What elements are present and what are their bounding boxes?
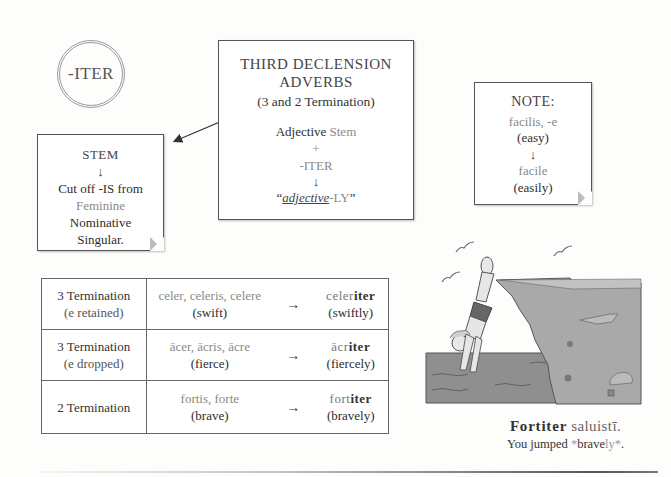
formula-stem: Stem [326,124,356,139]
formula-result-adjective: adjective [282,190,329,205]
english-ly: ly [605,437,615,451]
latin-verb: saluistī. [567,418,621,434]
third-declension-adverbs-box: THIRD DECLENSION ADVERBS (3 and 2 Termin… [218,40,414,220]
adjective-forms: celer, celeris, celere (swift) [146,279,273,330]
down-arrow-icon: ↓ [475,147,591,164]
english-text: You jumped [507,437,571,451]
table-row: 3 Termination (e retained) celer, celeri… [42,279,389,330]
main-subtitle: (3 and 2 Termination) [219,94,413,110]
right-arrow-icon: → [273,330,313,381]
adverb-stem: ācr [331,339,348,354]
meaning-text: (swift) [148,304,272,321]
note-line3: facile [475,163,591,180]
stem-note: STEM ↓ Cut off -IS from Feminine Nominat… [37,134,164,251]
diver-illustration-icon [420,230,670,410]
stem-line2: Feminine [38,197,163,214]
adverb-meaning: (fiercely) [314,355,387,372]
iter-suffix-badge: -ITER [57,40,125,108]
note-line2: (easy) [475,130,591,147]
stem-line4: Singular. [38,231,163,248]
right-arrow-icon: → [273,381,313,434]
note-line4: (easily) [475,180,591,197]
forms-text: ācer, ācris, ācre [148,338,272,355]
formula-plus: + [219,140,413,157]
adverb-meaning: (bravely) [314,407,387,424]
english-caption: You jumped *bravely*. [460,436,671,452]
table-row: 2 Termination fortis, forte (brave) → fo… [42,381,389,434]
down-arrow-icon: ↓ [38,163,163,180]
english-brave: brave [577,437,605,451]
page-curl-icon [578,191,592,205]
stem-title: STEM [38,146,163,163]
type-label: 3 Termination [43,338,145,355]
formula: Adjective Stem + -ITER ↓ “adjective-LY” [219,123,413,206]
period: . [621,437,624,451]
note-box: NOTE: facilis, -e (easy) ↓ facile (easil… [474,82,592,205]
adverb-ending: iter [350,391,371,406]
table-row: 3 Termination (e dropped) ācer, ācris, ā… [42,330,389,381]
adverb-formation-table: 3 Termination (e retained) celer, celeri… [41,278,389,434]
adverb-form: fortiter (bravely) [313,381,388,434]
down-arrow-icon: ↓ [219,174,413,189]
forms-text: celer, celeris, celere [148,287,272,304]
forms-text: fortis, forte [148,390,272,407]
close-quote: ” [350,190,356,205]
note-title: NOTE: [475,94,591,111]
formula-result-ly: -LY [329,190,349,205]
termination-type: 2 Termination [42,381,147,434]
formula-adjective: Adjective [276,124,327,139]
stem-line3: Nominative [38,214,163,231]
adverb-ending: iter [349,339,370,354]
stem-line1: Cut off -IS from [38,180,163,197]
adjective-forms: ācer, ācris, ācre (fierce) [146,330,273,381]
right-arrow-icon: → [273,279,313,330]
adverb-stem: fort [330,391,351,406]
adverb-stem: celer [326,288,354,303]
termination-type: 3 Termination (e dropped) [42,330,147,381]
adverb-ending: iter [354,288,375,303]
type-note: (e dropped) [43,355,145,372]
bottom-rule [40,471,658,473]
illustration-caption: Fortiter saluistī. You jumped *bravely*. [460,417,671,452]
adverb-form: ācriter (fiercely) [313,330,388,381]
formula-suffix: -ITER [219,157,413,174]
note-line1: facilis, -e [475,114,591,131]
latin-adverb: Fortiter [510,418,567,434]
main-title-line2: ADVERBS [219,73,413,91]
type-label: 2 Termination [43,399,145,416]
latin-caption: Fortiter saluistī. [460,417,671,436]
termination-type: 3 Termination (e retained) [42,279,147,330]
iter-suffix-label: -ITER [68,64,114,84]
type-note: (e retained) [43,304,145,321]
adverb-meaning: (swiftly) [314,304,387,321]
meaning-text: (fierce) [148,355,272,372]
adjective-forms: fortis, forte (brave) [146,381,273,434]
adverb-form: celeriter (swiftly) [313,279,388,330]
page-curl-icon [150,237,164,251]
main-title-line1: THIRD DECLENSION [219,55,413,73]
meaning-text: (brave) [148,407,272,424]
type-label: 3 Termination [43,287,145,304]
